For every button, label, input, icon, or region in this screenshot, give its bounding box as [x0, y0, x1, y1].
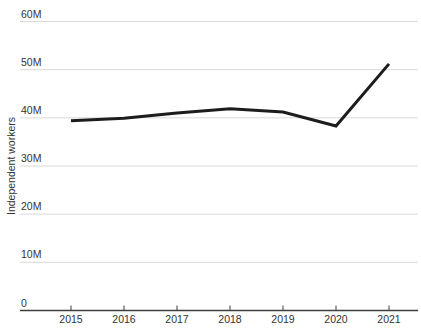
y-tick-label-10M: 10M: [21, 248, 41, 260]
y-tick-label-20M: 20M: [21, 200, 41, 212]
axes-group: [20, 306, 418, 311]
x-tick-label-2020: 2020: [324, 313, 348, 325]
x-tick-label-2019: 2019: [271, 313, 295, 325]
y-tick-label-50M: 50M: [21, 56, 41, 68]
y-tick-label-0: 0: [21, 297, 27, 309]
y-tick-label-30M: 30M: [21, 152, 41, 164]
chart-canvas: 010M20M30M40M50M60M201520162017201820192…: [0, 0, 421, 330]
x-tick-label-2017: 2017: [165, 313, 189, 325]
x-tick-label-2016: 2016: [112, 313, 136, 325]
gridlines-group: [20, 22, 418, 263]
x-tick-label-2021: 2021: [377, 313, 401, 325]
y-tick-label-60M: 60M: [21, 8, 41, 20]
independent-workers-line-chart: 010M20M30M40M50M60M201520162017201820192…: [0, 0, 421, 330]
x-tick-label-2015: 2015: [59, 313, 83, 325]
x-tick-label-2018: 2018: [218, 313, 242, 325]
series-line-independent-workers: [71, 64, 389, 126]
data-series-group: [71, 64, 389, 126]
y-axis-title: Independent workers: [5, 117, 17, 215]
y-tick-label-40M: 40M: [21, 104, 41, 116]
